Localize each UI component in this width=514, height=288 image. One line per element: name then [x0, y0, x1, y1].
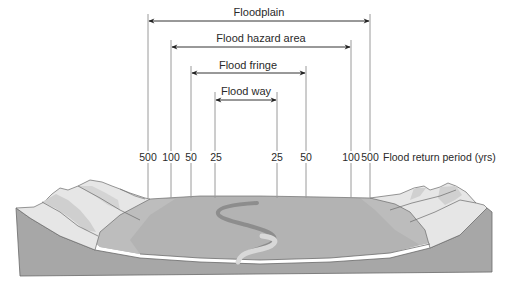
return-period-500-right: 500 [361, 151, 379, 163]
return-period-25-left: 25 [210, 151, 222, 163]
flood-hazard-area-label: Flood hazard area [216, 32, 305, 45]
return-period-50-right: 50 [300, 151, 312, 163]
flood-fringe-label: Flood fringe [219, 59, 277, 72]
floodplain-diagram: Floodplain Flood hazard area Flood fring… [0, 0, 514, 288]
flood-way-label: Flood way [221, 85, 271, 98]
terrain [16, 180, 492, 276]
return-period-500-left: 500 [139, 151, 157, 163]
return-period-100-right: 100 [342, 151, 360, 163]
return-period-50-left: 50 [185, 151, 197, 163]
return-period-100-left: 100 [162, 151, 180, 163]
return-period-axis-title: Flood return period (yrs) [383, 151, 496, 163]
floodplain-label: Floodplain [234, 6, 285, 19]
return-period-25-right: 25 [271, 151, 283, 163]
